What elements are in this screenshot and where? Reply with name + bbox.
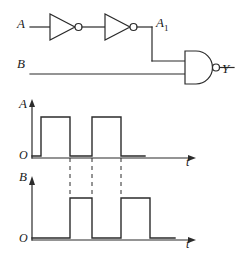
alignment-guides bbox=[70, 158, 121, 196]
label-node-a1: A1 bbox=[156, 16, 168, 33]
nand-gate-bubble bbox=[213, 64, 220, 71]
label-waveform-b-axis: B bbox=[19, 170, 27, 183]
label-waveform-b-time: t bbox=[186, 238, 189, 250]
label-waveform-a-origin: O bbox=[19, 149, 28, 161]
label-waveform-a-axis: A bbox=[19, 97, 27, 110]
label-waveform-b-origin: O bbox=[19, 232, 28, 244]
label-waveform-a-time: t bbox=[186, 156, 189, 168]
logic-circuit-timing-figure: A B A1 Y A O t B O t bbox=[0, 0, 240, 270]
circuit-diagram bbox=[30, 14, 234, 84]
label-output-y: Y bbox=[222, 62, 229, 75]
waveform-a-plot bbox=[29, 99, 196, 161]
waveform-b-y-axis-arrowhead bbox=[29, 176, 35, 185]
label-node-a1-base: A bbox=[156, 15, 164, 30]
inverter-2-body bbox=[105, 14, 130, 40]
label-input-a: A bbox=[17, 17, 25, 30]
inverter-1-bubble bbox=[75, 24, 82, 31]
waveform-b-plot bbox=[29, 176, 196, 243]
waveform-a-trace bbox=[32, 117, 145, 156]
waveform-b-trace bbox=[32, 198, 175, 238]
label-input-b: B bbox=[17, 57, 25, 70]
label-node-a1-subscript: 1 bbox=[164, 23, 169, 33]
waveform-a-y-axis-arrowhead bbox=[29, 99, 35, 107]
nand-gate-body bbox=[185, 51, 212, 84]
inverter-1-body bbox=[50, 14, 75, 40]
figure-canvas bbox=[0, 0, 240, 270]
inverter-2-bubble bbox=[130, 24, 137, 31]
